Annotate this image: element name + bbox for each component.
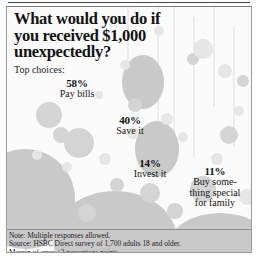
page-title: What would you do if you received $1,000…	[14, 11, 194, 61]
stat-pay-bills: 58% Pay bills	[37, 77, 117, 100]
stat-save-it: 40% Save it	[95, 114, 165, 137]
footnote-divider-rule	[7, 229, 251, 230]
footnote-margin-of-error: Margin of error ±3 percentage points.	[9, 249, 239, 253]
stat-label: Pay bills	[37, 89, 117, 100]
infographic-graphic: What would you do if you received $1,000…	[0, 0, 256, 265]
subhead-top-choices: Top choices:	[14, 64, 65, 75]
top-divider-rule	[8, 2, 250, 3]
infographic-panel: What would you do if you received $1,000…	[6, 6, 252, 253]
infographic-content: What would you do if you received $1,000…	[7, 7, 251, 252]
stat-buy-something-special: 11% Buy some- thing special for family	[175, 165, 252, 209]
footnote-block: Note: Multiple responses allowed. Source…	[9, 232, 239, 253]
stat-label: Save it	[95, 126, 165, 137]
stat-label: Buy some- thing special for family	[175, 177, 252, 209]
